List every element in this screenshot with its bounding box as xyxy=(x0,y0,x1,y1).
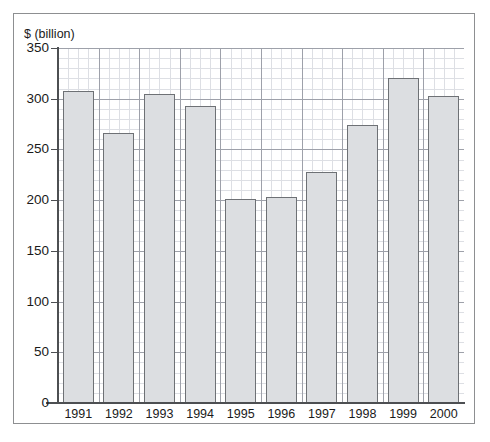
bar-1993 xyxy=(144,94,175,403)
bars-layer xyxy=(58,48,464,403)
y-tick-label-250: 250 xyxy=(3,142,49,156)
y-tick-label-100: 100 xyxy=(3,295,49,309)
bar-1991 xyxy=(63,91,94,403)
y-tick-mark-250 xyxy=(51,149,57,150)
y-axis-line xyxy=(57,47,59,404)
y-tick-mark-200 xyxy=(51,200,57,201)
bar-1998 xyxy=(347,125,378,403)
y-tick-mark-0 xyxy=(51,403,57,404)
bar-2000 xyxy=(428,96,459,403)
y-tick-label-350: 350 xyxy=(3,41,49,55)
x-axis-line xyxy=(46,402,465,404)
bar-1997 xyxy=(306,172,337,403)
y-tick-label-50: 50 xyxy=(3,345,49,359)
plot-area xyxy=(58,48,464,403)
y-axis-labels: 050100150200250300350 xyxy=(0,0,49,442)
y-tick-mark-100 xyxy=(51,302,57,303)
y-tick-label-150: 150 xyxy=(3,244,49,258)
chart-screenshot: $ (billion) 050100150200250300350 199119… xyxy=(0,0,490,442)
y-tick-mark-350 xyxy=(51,48,57,49)
x-tick-label-2000: 2000 xyxy=(419,408,469,421)
y-tick-mark-150 xyxy=(51,251,57,252)
y-tick-label-0: 0 xyxy=(3,396,49,410)
y-tick-label-200: 200 xyxy=(3,193,49,207)
bar-1995 xyxy=(225,199,256,403)
bar-1996 xyxy=(266,197,297,403)
y-tick-mark-50 xyxy=(51,352,57,353)
bar-1992 xyxy=(103,133,134,403)
y-tick-label-300: 300 xyxy=(3,92,49,106)
bar-1999 xyxy=(388,78,419,403)
bar-1994 xyxy=(185,106,216,403)
y-tick-mark-300 xyxy=(51,99,57,100)
